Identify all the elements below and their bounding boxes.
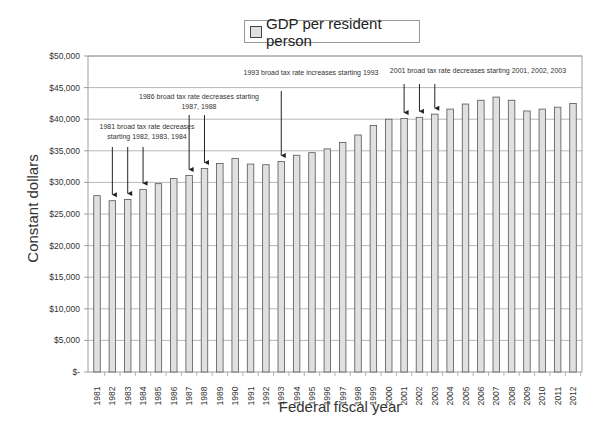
x-tick-label: 1989 [215, 386, 225, 405]
bar-1981 [94, 196, 101, 372]
bar-1998 [355, 135, 362, 372]
annotation-1981: 1981 broad tax rate decreases starting 1… [92, 122, 202, 142]
bar-2005 [462, 104, 469, 372]
bar-1989 [217, 163, 224, 372]
bar-1997 [339, 143, 346, 372]
legend-label: GDP per resident person [266, 15, 419, 49]
bar-2003 [432, 114, 439, 372]
x-tick-label: 1990 [230, 386, 240, 405]
annotation-2001: 2001 broad tax rate decreases starting 2… [388, 66, 568, 76]
legend-swatch-icon [250, 26, 262, 38]
x-tick-label: 2007 [491, 386, 501, 405]
annotation-line: 1993 broad tax rate increases starting 1… [236, 68, 386, 78]
bar-2006 [478, 100, 485, 372]
y-tick-label: $25,000 [49, 209, 80, 219]
y-tick-label: $10,000 [49, 304, 80, 314]
x-tick-label: 1982 [107, 386, 117, 405]
bar-1991 [247, 164, 254, 372]
y-tick-label: $30,000 [49, 177, 80, 187]
x-tick-label: 2008 [507, 386, 517, 405]
x-tick-label: 1981 [92, 386, 102, 405]
bar-2002 [416, 117, 423, 372]
y-tick-label: $20,000 [49, 241, 80, 251]
annotation-line: 2001 broad tax rate decreases starting 2… [388, 66, 568, 76]
x-tick-label: 2009 [522, 386, 532, 405]
y-tick-label: $5,000 [54, 335, 80, 345]
y-tick-label: $50,000 [49, 51, 80, 61]
x-tick-label: 1984 [138, 386, 148, 405]
x-tick-label: 2006 [476, 386, 486, 405]
bar-1999 [370, 126, 377, 372]
bar-1984 [140, 189, 147, 372]
legend: GDP per resident person [244, 20, 420, 43]
bar-1988 [201, 168, 208, 372]
annotation-1993: 1993 broad tax rate increases starting 1… [236, 68, 386, 78]
bar-1987 [186, 175, 193, 372]
x-tick-label: 2005 [461, 386, 471, 405]
annotation-line: 1986 broad tax rate decreases starting [134, 92, 264, 102]
bar-1993 [278, 162, 285, 372]
bar-2012 [570, 103, 577, 372]
x-tick-label: 1986 [169, 386, 179, 405]
annotation-line: 1981 broad tax rate decreases [92, 122, 202, 132]
bar-2009 [524, 111, 531, 372]
bar-1986 [171, 179, 178, 372]
y-tick-label: $35,000 [49, 146, 80, 156]
annotation-1986: 1986 broad tax rate decreases starting 1… [134, 92, 264, 112]
x-tick-label: 1985 [153, 386, 163, 405]
y-tick-label: $45,000 [49, 83, 80, 93]
x-tick-label: 2011 [553, 387, 563, 406]
x-tick-label: 1983 [123, 386, 133, 405]
x-axis-title: Federal fiscal year [240, 398, 440, 415]
bar-1983 [124, 199, 131, 372]
annotation-line: starting 1982, 1983, 1984 [92, 132, 202, 142]
bar-2001 [401, 119, 408, 372]
annotation-line: 1987, 1988 [134, 102, 264, 112]
x-tick-label: 2004 [445, 386, 455, 405]
bar-1985 [155, 184, 162, 372]
x-tick-label: 2010 [537, 386, 547, 405]
x-tick-label: 2012 [568, 386, 578, 405]
y-tick-label: $40,000 [49, 114, 80, 124]
bar-2007 [493, 97, 500, 372]
bar-2004 [447, 109, 454, 372]
bar-1995 [309, 153, 316, 372]
x-tick-label: 1987 [184, 386, 194, 405]
y-axis-title: Constant dollars [24, 129, 41, 289]
bar-2011 [554, 107, 561, 372]
bar-1996 [324, 149, 331, 372]
bar-2008 [508, 100, 515, 372]
y-tick-label: $15,000 [49, 272, 80, 282]
bar-1990 [232, 158, 239, 372]
bar-2000 [385, 119, 392, 372]
x-tick-label: 1988 [199, 386, 209, 405]
bar-2010 [539, 109, 546, 372]
bar-1994 [293, 155, 300, 372]
bar-1982 [109, 201, 116, 372]
bar-1992 [263, 165, 270, 372]
y-tick-label: $- [72, 367, 80, 377]
